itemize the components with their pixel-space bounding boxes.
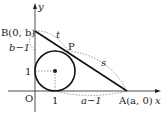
label-origin: O — [25, 93, 33, 104]
label-t: t — [56, 29, 61, 40]
label-one-x: 1 — [52, 95, 58, 106]
label-a: A(a, 0) — [118, 95, 153, 106]
label-one-y: 1 — [25, 66, 31, 77]
y-arrow-icon — [33, 3, 37, 9]
label-p: P — [68, 41, 75, 52]
label-s: s — [101, 57, 106, 68]
line-ab — [35, 31, 127, 91]
label-b-minus-1: b−1 — [9, 42, 30, 53]
label-a-minus-1: a−1 — [81, 95, 102, 106]
diagram-svg: y x O B(0, b) A(a, 0) P t s b−1 a−1 1 1 — [0, 0, 164, 118]
label-x: x — [155, 95, 161, 106]
diagram: y x O B(0, b) A(a, 0) P t s b−1 a−1 1 1 — [0, 0, 164, 118]
x-arrow-icon — [155, 89, 161, 93]
label-y: y — [37, 1, 44, 12]
label-b: B(0, b) — [1, 27, 35, 38]
